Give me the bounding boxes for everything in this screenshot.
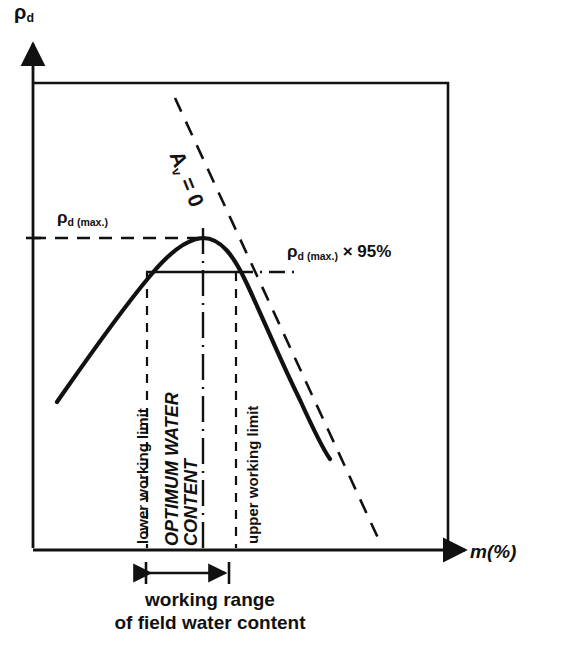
figure-canvas: ρd m(%) ρd (max.) ρd (max.) × 95% Av = 0… <box>0 0 564 651</box>
optimum-water-content-line1: OPTIMUM WATER <box>163 392 182 546</box>
zero-air-voids-line <box>175 98 378 538</box>
x-axis-label: m(%) <box>470 542 516 562</box>
y-axis-label: ρd <box>14 2 34 23</box>
plot-frame <box>33 83 448 550</box>
rho-d-max-label: ρd (max.) <box>57 209 108 227</box>
lower-working-limit-label: lower working limit <box>135 408 151 544</box>
caption-line-1: working range <box>0 588 420 611</box>
caption-line-2: of field water content <box>0 611 420 634</box>
working-range-caption: working range of field water content <box>0 588 420 634</box>
upper-working-limit-label: upper working limit <box>245 406 261 544</box>
rho-d-max-95-label: ρd (max.) × 95% <box>287 243 391 261</box>
optimum-water-content-label: OPTIMUM WATER CONTENT <box>163 392 201 546</box>
optimum-water-content-line2: CONTENT <box>182 392 201 546</box>
